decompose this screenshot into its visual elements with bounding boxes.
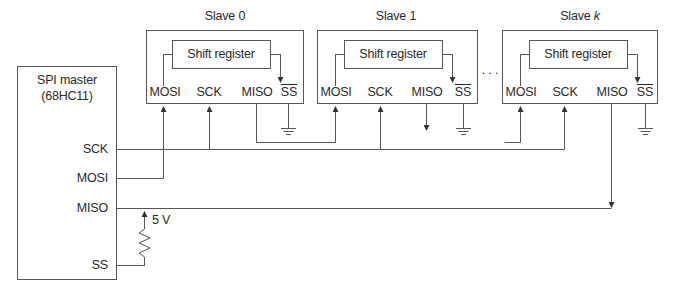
slave-0-pin-mosi: MOSI	[149, 86, 180, 99]
master-pin-mosi: MOSI	[77, 172, 108, 185]
slave-1-pin-sck: SCK	[367, 86, 392, 99]
master-subtitle: (68HC11)	[41, 90, 93, 103]
slave-k-title: Slave k	[560, 10, 600, 23]
slave-1-pin-mosi: MOSI	[320, 86, 351, 99]
master-pin-ss: SS	[92, 259, 108, 272]
slave-1-pin-miso: MISO	[411, 86, 442, 99]
pullup-voltage-label: 5 V	[152, 214, 170, 227]
slave-1-pin-ss: SS	[455, 86, 471, 99]
slave-0-shift-register: Shift register	[187, 48, 254, 61]
more-slaves-ellipsis: . . .	[482, 64, 498, 77]
slave-0-title: Slave 0	[205, 10, 245, 23]
slave-k-shift-register: Shift register	[544, 48, 611, 61]
slave-0-pin-miso: MISO	[241, 86, 272, 99]
master-title: SPI master	[37, 74, 97, 87]
slave-0-pin-sck: SCK	[196, 86, 221, 99]
slave-k-pin-ss: SS	[637, 86, 653, 99]
slave-0-pin-ss: SS	[281, 86, 297, 99]
master-pin-miso: MISO	[77, 202, 108, 215]
slave-1-shift-register: Shift register	[359, 48, 426, 61]
master-pin-sck: SCK	[83, 143, 108, 156]
slave-k-pin-mosi: MOSI	[505, 86, 536, 99]
slave-k-pin-sck: SCK	[552, 86, 577, 99]
slave-1-title: Slave 1	[376, 10, 416, 23]
slave-k-pin-miso: MISO	[596, 86, 627, 99]
